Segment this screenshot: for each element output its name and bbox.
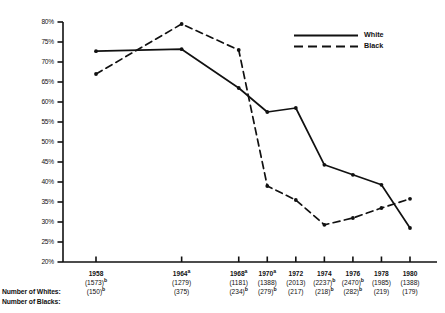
data-point-white — [351, 173, 355, 177]
y-axis-tick-label: 55% — [28, 118, 54, 125]
y-axis-tick-label: 45% — [28, 158, 54, 165]
x-axis-whites-count: (1279) — [158, 278, 206, 287]
data-series-layer — [94, 22, 412, 230]
x-axis-whites-count: (1573)b — [72, 278, 120, 287]
x-axis-year: 1958 — [72, 269, 120, 278]
x-axis-blacks-count: (150)b — [72, 287, 120, 296]
y-axis-tick-label: 75% — [28, 38, 54, 45]
x-axis-group: 1980(1388)(179) — [386, 269, 434, 297]
x-axis-blacks-count-footnote: b — [102, 286, 105, 292]
chart-figure: 80%75%70%65%60%55%50%45%40%35%30%25%20% … — [0, 0, 445, 313]
y-axis-tick-label: 65% — [28, 78, 54, 85]
data-point-white — [380, 183, 384, 187]
y-axis-tick-label: 60% — [28, 98, 54, 105]
data-point-white — [322, 163, 326, 167]
y-axis-tick-label: 80% — [28, 18, 54, 25]
data-point-black — [380, 206, 384, 210]
legend-label-black: Black — [364, 41, 383, 50]
x-axis-blacks-count: (179) — [386, 287, 434, 296]
x-axis-group: 1964a(1279)(375) — [158, 269, 206, 297]
y-axis-tick-label: 30% — [28, 218, 54, 225]
x-axis-year-text: 1958 — [89, 270, 104, 277]
y-axis-tick-label: 40% — [28, 178, 54, 185]
x-axis-whites-count-text: (1573) — [85, 279, 104, 286]
data-point-black — [237, 48, 241, 52]
series-line-black — [96, 24, 410, 225]
x-axis-group: 1958(1573)b(150)b — [72, 269, 120, 297]
data-point-black — [180, 22, 184, 26]
x-axis-blacks-count-text: (179) — [402, 288, 417, 295]
x-axis-year-footnote: a — [188, 268, 191, 274]
legend-label-white: White — [364, 30, 384, 39]
data-point-black — [322, 223, 326, 227]
x-axis-blacks-count-text: (150) — [87, 288, 102, 295]
data-point-white — [294, 106, 298, 110]
x-axis-whites-count-text: (1279) — [172, 279, 191, 286]
data-point-white — [180, 47, 184, 51]
legend-swatch-solid — [292, 30, 362, 41]
y-axis-tick-label: 20% — [28, 258, 54, 265]
axis-lines — [63, 22, 437, 262]
row-caption-blacks: Number of Blacks: — [2, 298, 60, 305]
x-axis-year: 1964a — [158, 269, 206, 278]
data-point-white — [408, 226, 412, 230]
data-point-black — [408, 197, 412, 201]
data-point-black — [94, 72, 98, 76]
x-axis-blacks-count: (375) — [158, 287, 206, 296]
legend-swatch-dashed — [292, 41, 362, 52]
row-caption-whites: Number of Whites: — [2, 288, 61, 295]
x-axis-year-text: 1980 — [403, 270, 418, 277]
data-point-white — [94, 49, 98, 53]
x-axis-whites-count-text: (1388) — [400, 279, 419, 286]
y-axis-ticks — [58, 22, 64, 262]
y-axis-tick-label: 50% — [28, 138, 54, 145]
x-axis-blacks-count-text: (375) — [174, 288, 189, 295]
x-axis-year: 1980 — [386, 269, 434, 278]
x-axis-year-text: 1964 — [173, 270, 188, 277]
x-axis-whites-count: (1388) — [386, 278, 434, 287]
y-axis-tick-label: 25% — [28, 238, 54, 245]
y-axis-tick-label: 35% — [28, 198, 54, 205]
data-point-black — [351, 216, 355, 220]
series-line-white — [96, 49, 410, 228]
data-point-white — [237, 86, 241, 90]
x-axis-whites-count-footnote: b — [104, 277, 107, 283]
x-axis-ticks — [96, 257, 410, 263]
data-point-black — [294, 198, 298, 202]
plot-area: 80%75%70%65%60%55%50%45%40%35%30%25%20% … — [0, 0, 445, 313]
data-point-white — [265, 110, 269, 114]
y-axis-tick-label: 70% — [28, 58, 54, 65]
data-point-black — [265, 184, 269, 188]
